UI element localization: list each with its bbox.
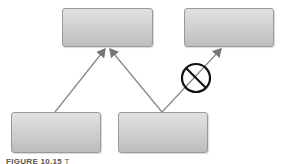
node-top-left bbox=[62, 8, 153, 47]
prohibited-icon bbox=[182, 64, 210, 92]
caption-text: T bbox=[64, 157, 69, 164]
edge-bottom-right-to-top-right bbox=[162, 49, 221, 112]
node-bottom-left bbox=[11, 112, 101, 153]
edge-bottom-right-to-top-left bbox=[110, 49, 162, 112]
figure-caption: FIGURE 10.15 T bbox=[6, 157, 70, 164]
figure-label: FIGURE 10.15 bbox=[6, 157, 62, 164]
node-top-right bbox=[184, 8, 274, 47]
node-bottom-right bbox=[118, 112, 208, 153]
edge-bottom-left-to-top-left bbox=[55, 49, 105, 112]
